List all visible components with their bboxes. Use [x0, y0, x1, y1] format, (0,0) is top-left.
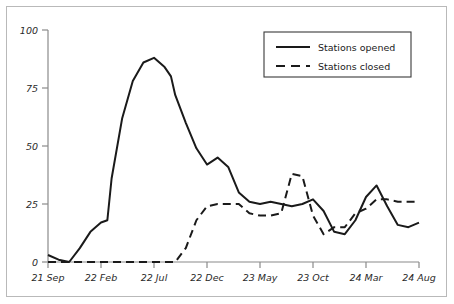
y-tick-label: 25 [26, 199, 38, 210]
x-tick-label: 23 May [243, 272, 278, 283]
y-tick-label: 50 [26, 141, 38, 152]
y-tick-label: 100 [20, 25, 38, 36]
y-tick-label: 0 [32, 257, 38, 268]
y-axis-tick-labels: 0255075100 [20, 25, 38, 268]
line-chart: 0255075100 21 Sep22 Feb22 Jul22 Dec23 Ma… [0, 0, 454, 304]
x-tick-label: 22 Jul [141, 272, 168, 283]
series-line-0 [48, 58, 419, 262]
y-axis-ticks [42, 30, 48, 262]
y-tick-label: 75 [26, 83, 38, 94]
chart-legend: Stations openedStations closed [264, 32, 411, 77]
x-tick-label: 22 Feb [85, 272, 117, 283]
chart-figure: 0255075100 21 Sep22 Feb22 Jul22 Dec23 Ma… [0, 0, 454, 304]
x-axis-tick-labels: 21 Sep22 Feb22 Jul22 Dec23 May23 Oct24 M… [31, 272, 435, 283]
x-tick-label: 23 Oct [297, 272, 330, 283]
data-series-group [48, 58, 419, 262]
x-tick-label: 21 Sep [31, 272, 64, 283]
x-tick-label: 22 Dec [190, 272, 224, 283]
legend-label-1: Stations closed [318, 61, 390, 72]
legend-label-0: Stations opened [318, 42, 395, 53]
series-line-1 [48, 174, 419, 262]
x-tick-label: 24 Mar [349, 272, 383, 283]
x-tick-label: 24 Aug [402, 272, 436, 283]
